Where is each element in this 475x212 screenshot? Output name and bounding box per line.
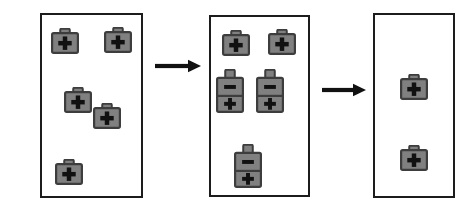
- cell-single-2-icon: [104, 27, 132, 53]
- cell-single-8-icon: [400, 74, 428, 100]
- cell-glyph: [64, 87, 92, 113]
- cell-double-2-icon: [256, 69, 284, 113]
- cell-glyph: [400, 74, 428, 100]
- cell-divider: [235, 170, 261, 172]
- arrow-1-icon: [155, 58, 201, 74]
- cell-glyph: [51, 28, 79, 54]
- cell-glyph: [93, 103, 121, 129]
- arrow-shaft: [322, 88, 354, 92]
- cell-glyph: [256, 69, 284, 113]
- cell-double-3-icon: [234, 144, 262, 188]
- arrow-right-icon: [155, 58, 201, 74]
- cell-single-6-icon: [222, 30, 250, 56]
- diagram-canvas: [0, 0, 475, 212]
- cell-divider: [217, 95, 243, 97]
- cell-glyph: [104, 27, 132, 53]
- minus-icon: [242, 160, 254, 164]
- arrow-2-icon: [322, 82, 366, 98]
- cell-single-3-icon: [64, 87, 92, 113]
- arrow-head: [353, 84, 366, 96]
- cell-glyph: [400, 145, 428, 171]
- cell-single-5-icon: [55, 159, 83, 185]
- cell-single-1-icon: [51, 28, 79, 54]
- arrow-right-icon: [322, 82, 366, 98]
- cell-double-1-icon: [216, 69, 244, 113]
- cell-glyph: [234, 144, 262, 188]
- cell-glyph: [55, 159, 83, 185]
- cell-glyph: [216, 69, 244, 113]
- cell-single-7-icon: [268, 29, 296, 55]
- arrow-head: [188, 60, 201, 72]
- cell-divider: [257, 95, 283, 97]
- cell-glyph: [268, 29, 296, 55]
- minus-icon: [264, 85, 276, 89]
- cell-single-9-icon: [400, 145, 428, 171]
- minus-icon: [224, 85, 236, 89]
- arrow-shaft: [155, 64, 189, 68]
- cell-single-4-icon: [93, 103, 121, 129]
- cell-glyph: [222, 30, 250, 56]
